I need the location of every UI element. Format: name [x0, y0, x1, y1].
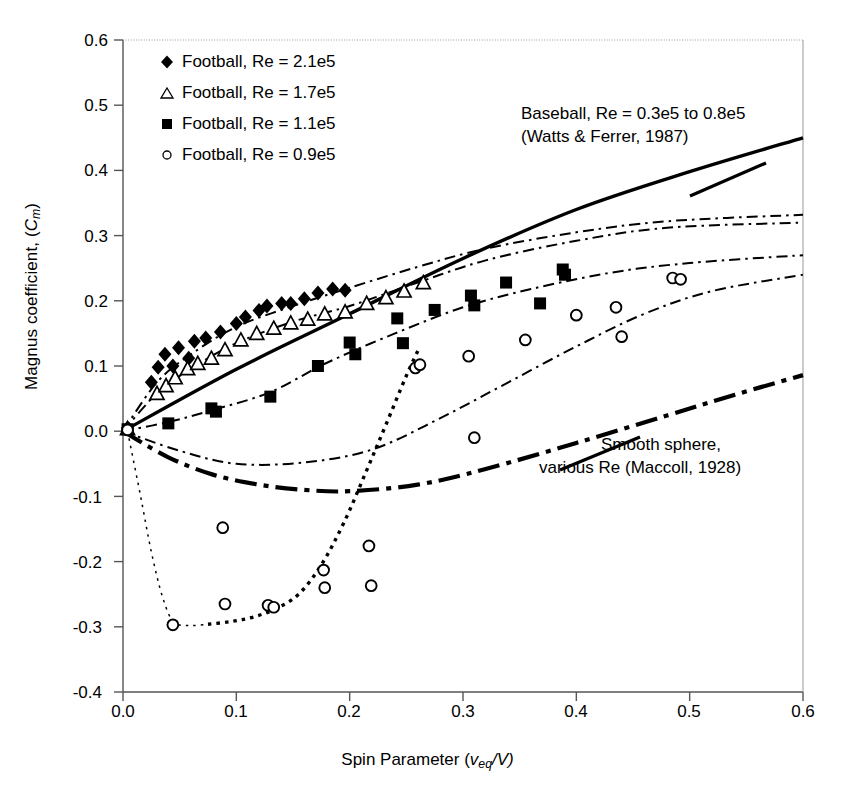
filled-square-marker	[344, 337, 356, 349]
open-circle-marker	[217, 522, 228, 533]
open-circle-marker	[611, 302, 622, 313]
filled-diamond-marker	[158, 347, 171, 362]
open-circle-marker	[415, 359, 426, 370]
reference-curve	[123, 215, 803, 431]
open-circle-marker	[167, 619, 178, 630]
open-circle-marker	[616, 331, 627, 342]
filled-diamond-marker	[298, 291, 311, 306]
open-circle-marker	[469, 432, 480, 443]
open-circle-marker	[122, 424, 133, 435]
filled-diamond-marker	[152, 360, 165, 375]
reference-curve	[128, 431, 208, 625]
open-circle-marker	[366, 580, 377, 591]
filled-square-marker	[468, 299, 480, 311]
filled-square-marker	[534, 297, 546, 309]
filled-diamond-marker	[284, 296, 297, 311]
filled-diamond-marker	[326, 282, 339, 297]
open-triangle-marker	[284, 316, 298, 329]
open-circle-marker	[220, 599, 231, 610]
filled-square-marker	[210, 406, 222, 418]
open-circle-marker	[520, 335, 531, 346]
magnus-coefficient-chart: Magnus coefficient, (Cm) Spin Parameter …	[0, 0, 855, 800]
filled-square-marker	[162, 417, 174, 429]
filled-diamond-marker	[339, 283, 352, 298]
open-triangle-marker	[168, 371, 182, 384]
open-circle-marker	[268, 602, 279, 613]
open-circle-marker	[318, 565, 329, 576]
filled-square-marker	[397, 337, 409, 349]
reference-curve	[123, 275, 803, 465]
filled-diamond-marker	[172, 340, 185, 355]
filled-square-marker	[312, 360, 324, 372]
open-circle-marker	[463, 351, 474, 362]
filled-diamond-marker	[188, 334, 201, 349]
reference-curve	[123, 138, 803, 431]
filled-diamond-marker	[199, 330, 212, 345]
reference-curve	[208, 346, 420, 624]
open-triangle-marker	[267, 321, 281, 334]
filled-square-marker	[429, 304, 441, 316]
plot-canvas	[0, 0, 855, 800]
filled-square-marker	[500, 277, 512, 289]
filled-square-marker	[349, 348, 361, 360]
open-circle-marker	[571, 310, 582, 321]
filled-square-marker	[559, 269, 571, 281]
open-triangle-marker	[318, 307, 332, 320]
filled-square-marker	[264, 391, 276, 403]
open-triangle-marker	[234, 333, 248, 346]
open-circle-marker	[675, 274, 686, 285]
reference-curve	[123, 223, 803, 432]
open-circle-marker	[364, 541, 375, 552]
open-triangle-marker	[218, 343, 232, 356]
filled-square-marker	[391, 312, 403, 324]
open-circle-marker	[319, 582, 330, 593]
reference-curve	[123, 375, 803, 491]
